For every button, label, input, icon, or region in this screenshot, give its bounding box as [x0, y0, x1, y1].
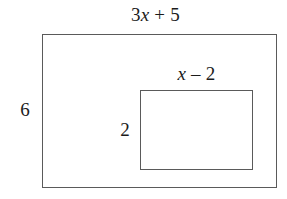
inner-rectangle-height-label: 2: [114, 120, 136, 139]
inner-width-constant: 2: [206, 63, 216, 84]
outer-width-operator: +: [149, 4, 170, 25]
outer-rectangle-height-label: 6: [14, 100, 36, 119]
outer-width-constant: 5: [170, 4, 180, 25]
geometry-figure: 3x + 5 6 x – 2 2: [0, 0, 287, 199]
inner-width-variable: x: [178, 63, 187, 84]
inner-rectangle: [140, 90, 253, 170]
inner-rectangle-width-label: x – 2: [141, 64, 252, 83]
outer-rectangle-width-label: 3x + 5: [0, 5, 287, 24]
outer-width-coefficient: 3: [131, 4, 141, 25]
inner-width-operator: –: [186, 63, 206, 84]
